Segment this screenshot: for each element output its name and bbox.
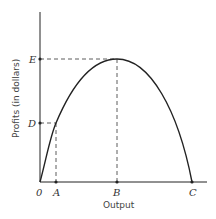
point-c [190, 180, 193, 183]
profit-chart: E D 0 A B C Output Profits (in dollars) [0, 0, 216, 219]
point-d [38, 121, 41, 124]
y-axis-label: Profits (in dollars) [11, 59, 21, 138]
label-e: E [28, 54, 37, 65]
point-b [115, 180, 118, 183]
point-a [54, 180, 57, 183]
label-b: B [112, 187, 120, 198]
label-c: C [189, 187, 197, 198]
label-a: A [52, 187, 60, 198]
label-origin: 0 [36, 187, 43, 198]
x-axis-label: Output [103, 200, 135, 210]
label-d: D [27, 118, 36, 129]
point-e [38, 57, 41, 60]
profit-curve [40, 59, 192, 182]
